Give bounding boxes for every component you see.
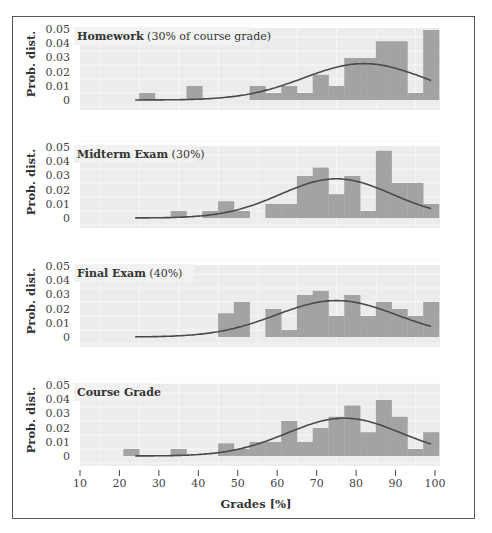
histogram-bar [313,75,329,100]
x-tick-label: 70 [310,477,324,490]
y-axis-title: Prob. dist. [24,387,38,454]
y-tick-label: 0.02 [46,422,71,435]
y-tick-label: 0.04 [46,274,71,287]
histogram-bar [407,449,423,456]
histogram-bar [423,30,439,100]
histogram-bar [423,432,439,456]
y-tick-label: 0.03 [46,407,71,420]
histogram-bar [218,201,234,218]
histogram-bar [423,302,439,337]
histogram-bar [407,93,423,100]
histogram-bar [281,204,297,218]
y-tick-label: 0.03 [46,288,71,301]
histogram-bar [313,168,329,218]
histogram-bar [297,442,313,456]
histogram-bar [360,432,376,456]
y-tick-label: 0.01 [46,198,71,211]
y-axis-title: Prob. dist. [24,149,38,216]
histogram-bar [281,421,297,456]
y-tick-label: 0 [63,212,70,225]
y-tick-label: 0.05 [46,260,71,273]
y-tick-label: 0.03 [46,51,71,64]
histogram-bar [218,443,234,456]
y-tick-label: 0.01 [46,436,71,449]
histogram-bar [297,295,313,337]
histogram-bar [423,204,439,218]
x-axis-title: Grades [%] [221,497,292,511]
y-tick-label: 0.02 [46,303,71,316]
histogram-bar [329,316,345,337]
histogram-bar [234,302,250,337]
panel-3: Final Exam (40%)00.010.020.030.040.05Pro… [24,260,440,347]
histogram-bar [376,302,392,337]
histogram-bar [376,41,392,100]
histogram-bar [329,417,345,456]
x-tick-label: 20 [112,477,126,490]
histogram-bar [297,93,313,100]
y-axis-title: Prob. dist. [24,31,38,98]
x-tick-label: 100 [425,477,446,490]
histogram-bar [407,183,423,218]
y-tick-label: 0.05 [46,23,71,36]
y-tick-label: 0.04 [46,155,71,168]
x-tick-label: 50 [231,477,245,490]
histogram-bar [187,86,203,100]
histogram-bar [139,93,155,100]
histogram-bar [329,194,345,218]
y-tick-label: 0.05 [46,379,71,392]
y-tick-label: 0.03 [46,169,71,182]
histogram-bar [234,211,250,218]
x-axis: 102030405060708090100Grades [%] [73,470,446,511]
histogram-bar [329,86,345,100]
panel-1: Homework (30% of course grade)00.010.020… [24,23,440,110]
x-tick-label: 40 [191,477,205,490]
y-tick-label: 0.01 [46,317,71,330]
y-tick-label: 0 [63,94,70,107]
histogram-chart: Homework (30% of course grade)00.010.020… [0,0,492,533]
x-tick-label: 60 [270,477,284,490]
histogram-bar [392,417,408,456]
histogram-bar [281,86,297,100]
panel-title: Course Grade [77,386,161,399]
y-tick-label: 0 [63,450,70,463]
histogram-bar [265,442,281,456]
x-tick-label: 30 [152,477,166,490]
y-tick-label: 0 [63,331,70,344]
histogram-bar [281,330,297,337]
histogram-bar [265,93,281,100]
y-tick-label: 0.02 [46,184,71,197]
histogram-bar [123,449,139,456]
histogram-bar [344,406,360,456]
x-tick-label: 90 [389,477,403,490]
y-axis-title: Prob. dist. [24,268,38,335]
y-tick-label: 0.04 [46,393,71,406]
histogram-bar [360,211,376,218]
panel-4: Course Grade00.010.020.030.040.05Prob. d… [24,379,440,466]
panel-title: Homework (30% of course grade) [77,30,271,43]
histogram-bar [265,204,281,218]
y-tick-label: 0.05 [46,141,71,154]
panel-title: Final Exam (40%) [77,267,182,280]
histogram-bar [360,316,376,337]
histogram-bar [313,428,329,456]
y-tick-label: 0.02 [46,66,71,79]
histogram-bar [313,291,329,337]
y-tick-label: 0.01 [46,80,71,93]
histogram-bar [376,151,392,218]
y-tick-label: 0.04 [46,37,71,50]
panel-title: Midterm Exam (30%) [77,148,205,161]
panel-2: Midterm Exam (30%)00.010.020.030.040.05P… [24,141,440,228]
histogram-bar [218,313,234,337]
x-tick-label: 80 [349,477,363,490]
x-tick-label: 10 [73,477,87,490]
